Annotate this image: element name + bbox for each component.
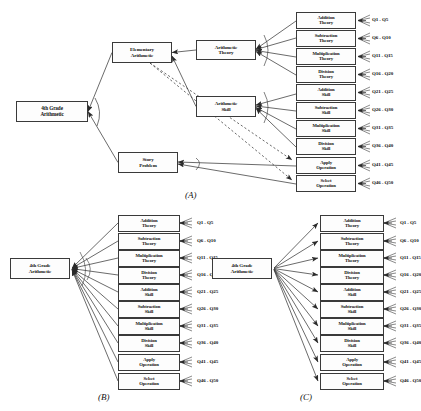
node-4th-grade-arithmetic-b[interactable]: 4th Grade Arithmetic	[10, 258, 70, 279]
node-4th-grade-arithmetic-c[interactable]: 4th Grade Arithmetic	[212, 258, 272, 279]
leaf-box-a-0[interactable]: AdditionTheory	[296, 12, 356, 29]
leaf-box-b-3[interactable]: DivisionTheory	[118, 267, 180, 284]
leaf-label-line2: Theory	[345, 223, 359, 228]
panel-a-caption: (A)	[185, 190, 197, 200]
question-range-c-7: Q36 - Q40	[400, 340, 421, 345]
leaf-box-b-1[interactable]: SubtractionTheory	[118, 233, 180, 250]
question-range-c-9: Q46 - Q50	[400, 378, 421, 383]
question-range-b-4: Q21 - Q25	[197, 289, 218, 294]
leaf-box-c-7[interactable]: DivisionSkill	[320, 335, 384, 352]
node-label-line2: Arithmetic	[231, 269, 253, 274]
node-label-line2: Skill	[221, 107, 230, 112]
node-label-line2: Arithmetic	[40, 111, 63, 117]
leaf-label-line2: Skill	[348, 309, 357, 314]
question-range-b-9: Q46 - Q50	[197, 378, 218, 383]
panelB-edges	[72, 223, 118, 381]
question-range-c-1: Q6 - Q10	[400, 238, 419, 243]
leaf-box-c-8[interactable]: ApplyOperation	[320, 354, 384, 371]
leaf-box-c-5[interactable]: SubtractionSkill	[320, 301, 384, 318]
node-label-line2: Arithmetic	[29, 269, 51, 274]
question-range-a-2: Q11 - Q15	[372, 53, 393, 58]
leaf-box-c-3[interactable]: DivisionTheory	[320, 267, 384, 284]
leaf-box-b-0[interactable]: AdditionTheory	[118, 215, 180, 232]
question-range-a-8: Q41 - Q45	[372, 162, 393, 167]
leaf-label-line2: Skill	[145, 326, 154, 331]
leaf-box-a-5[interactable]: SubtractionSkill	[296, 102, 356, 119]
leaf-box-c-0[interactable]: AdditionTheory	[320, 215, 384, 232]
question-range-a-5: Q26 - Q30	[372, 107, 393, 112]
question-range-c-5: Q26 - Q30	[400, 306, 421, 311]
leaf-box-b-5[interactable]: SubtractionSkill	[118, 301, 180, 318]
question-range-c-4: Q21 - Q25	[400, 289, 421, 294]
question-range-c-6: Q31 - Q35	[400, 323, 421, 328]
leaf-box-a-8[interactable]: ApplyOperation	[296, 157, 356, 174]
question-range-a-1: Q6 - Q10	[372, 35, 391, 40]
question-range-a-4: Q21 - Q25	[372, 89, 393, 94]
panelC-question-claws	[384, 218, 396, 386]
leaf-label-line2: Theory	[142, 223, 156, 228]
leaf-box-a-1[interactable]: SubtractionTheory	[296, 30, 356, 47]
question-range-b-8: Q41 - Q45	[197, 359, 218, 364]
panelA-root-edges	[88, 53, 118, 163]
question-range-c-2: Q11 - Q15	[400, 255, 421, 260]
leaf-box-c-4[interactable]: AdditionSkill	[320, 284, 384, 301]
leaf-box-c-9[interactable]: SelectOperation	[320, 373, 384, 390]
leaf-box-a-7[interactable]: DivisionSkill	[296, 138, 356, 155]
leaf-label-line2: Operation	[316, 183, 336, 188]
node-elementary-arithmetic-a[interactable]: Elementary Arithmetic	[112, 42, 172, 63]
panelC-edges	[274, 223, 318, 381]
leaf-label-line2: Skill	[145, 343, 154, 348]
panelA-theory-edges	[256, 21, 296, 75]
question-range-c-8: Q41 - Q45	[400, 359, 421, 364]
leaf-label-line2: Theory	[319, 74, 333, 79]
leaf-label-line2: Skill	[322, 128, 331, 133]
node-4th-grade-arithmetic-a[interactable]: 4th Grade Arithmetic	[16, 101, 88, 122]
question-range-a-7: Q36 - Q40	[372, 143, 393, 148]
node-story-problem-a[interactable]: Story Problem	[118, 152, 178, 173]
question-range-b-6: Q31 - Q35	[197, 323, 218, 328]
panelA-question-claws	[358, 15, 370, 189]
leaf-label-line2: Skill	[348, 326, 357, 331]
question-range-b-7: Q36 - Q40	[197, 340, 218, 345]
node-arithmetic-skill-a[interactable]: Arithmetic Skill	[196, 96, 256, 117]
leaf-label-line2: Skill	[322, 110, 331, 115]
leaf-box-b-8[interactable]: ApplyOperation	[118, 354, 180, 371]
leaf-label-line2: Theory	[142, 275, 156, 280]
leaf-box-c-1[interactable]: SubtractionTheory	[320, 233, 384, 250]
leaf-label-line2: Skill	[322, 146, 331, 151]
leaf-box-a-3[interactable]: DivisionTheory	[296, 66, 356, 83]
node-label-line2: Arithmetic	[131, 53, 153, 58]
leaf-label-line2: Operation	[139, 381, 159, 386]
question-range-b-5: Q26 - Q30	[197, 306, 218, 311]
leaf-box-a-9[interactable]: SelectOperation	[296, 175, 356, 192]
question-range-b-0: Q1 - Q5	[197, 220, 213, 225]
leaf-label-line2: Theory	[319, 38, 333, 43]
panel-c-caption: (C)	[300, 392, 312, 402]
question-range-a-9: Q46 - Q50	[372, 180, 393, 185]
panel-b-caption: (B)	[98, 392, 110, 402]
leaf-box-a-6[interactable]: MultiplicationSkill	[296, 120, 356, 137]
panelB-question-claws	[180, 218, 192, 386]
leaf-label-line2: Theory	[345, 275, 359, 280]
leaf-box-c-6[interactable]: MultiplicationSkill	[320, 318, 384, 335]
leaf-label-line2: Theory	[345, 241, 359, 246]
leaf-box-a-4[interactable]: AdditionSkill	[296, 84, 356, 101]
leaf-box-a-2[interactable]: MultiplicationTheory	[296, 48, 356, 65]
node-arithmetic-theory-a[interactable]: Arithmetic Theory	[196, 40, 256, 60]
leaf-box-b-6[interactable]: MultiplicationSkill	[118, 318, 180, 335]
leaf-label-line2: Operation	[139, 362, 159, 367]
question-range-a-0: Q1 - Q5	[372, 17, 388, 22]
leaf-label-line2: Theory	[142, 241, 156, 246]
leaf-box-b-2[interactable]: MultiplicationTheory	[118, 250, 180, 267]
leaf-label-line2: Theory	[142, 258, 156, 263]
question-range-a-6: Q31 - Q35	[372, 125, 393, 130]
leaf-box-b-7[interactable]: DivisionSkill	[118, 335, 180, 352]
panelA-skill-edges	[256, 92, 296, 147]
node-label-line2: Theory	[219, 50, 234, 55]
leaf-label-line2: Theory	[345, 258, 359, 263]
question-range-a-3: Q16 - Q20	[372, 71, 393, 76]
leaf-box-b-9[interactable]: SelectOperation	[118, 373, 180, 390]
leaf-box-b-4[interactable]: AdditionSkill	[118, 284, 180, 301]
leaf-box-c-2[interactable]: MultiplicationTheory	[320, 250, 384, 267]
